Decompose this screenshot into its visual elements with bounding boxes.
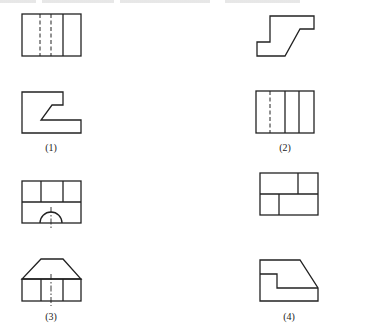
figure-2	[256, 16, 314, 133]
figure-1	[22, 14, 81, 133]
figure-4-upper-view	[260, 173, 318, 215]
figure-1-upper-view	[22, 14, 81, 56]
figure-3-label: (3)	[45, 311, 57, 322]
figure-3-upper-view	[22, 181, 81, 229]
figure-3-lower-view	[22, 259, 81, 306]
figure-4-label: (4)	[283, 311, 295, 322]
figure-3	[22, 181, 81, 306]
figure-2-label: (2)	[279, 142, 291, 153]
figure-2-lower-view	[256, 91, 314, 133]
figure-4	[260, 173, 318, 301]
figure-4-lower-view	[260, 260, 318, 301]
orthographic-views-drawing	[0, 0, 367, 330]
figure-1-label: (1)	[45, 142, 57, 153]
figure-2-upper-view	[257, 16, 314, 56]
figure-1-lower-view	[22, 92, 81, 133]
